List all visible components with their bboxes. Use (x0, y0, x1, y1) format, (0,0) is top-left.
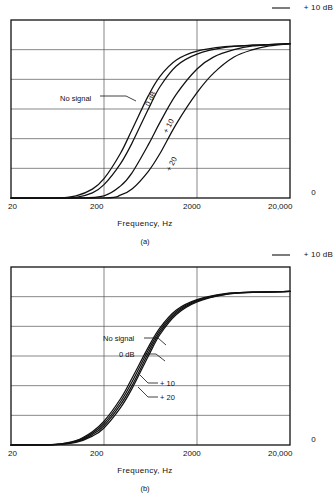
x-axis-title-a: Frequency, Hz (0, 219, 290, 228)
xtick-20000-b: 20,000 (268, 449, 292, 458)
curve-20 (11, 44, 290, 198)
axis-bottom-label-b: 0 (311, 435, 316, 444)
xtick-200-a: 200 (90, 202, 103, 211)
curve-label-plus20-b: + 20 (160, 393, 175, 402)
curve-no-signal (11, 44, 290, 198)
curve-label-no-signal-a: No signal (60, 94, 91, 103)
xtick-20000-a: 20,000 (268, 202, 292, 211)
chart-a-svg (0, 0, 335, 215)
xtick-20-a: 20 (8, 202, 17, 211)
x-axis-title-b: Frequency, Hz (0, 466, 290, 475)
xtick-2000-b: 2000 (183, 449, 201, 458)
xtick-200-b: 200 (90, 449, 103, 458)
chart-b-svg (0, 247, 335, 462)
curve-label-0db-b: 0 dB (119, 350, 134, 359)
figure-a: + 10 dB 0 20 200 2000 20,000 No signal 0… (0, 0, 335, 248)
curve-10 (11, 291, 290, 445)
figure-caption-b: (b) (0, 484, 290, 493)
curve-0-db (11, 44, 290, 198)
curve-0-db (11, 291, 290, 445)
label-leader-line (140, 375, 158, 383)
axis-top-label-a: + 10 dB (304, 3, 333, 12)
curve-label-no-signal-b: No signal (103, 334, 134, 343)
xtick-20-b: 20 (8, 449, 17, 458)
curve-10 (11, 44, 290, 198)
curve-no-signal (11, 291, 290, 445)
figure-b: + 10 dB 0 20 200 2000 20,000 No signal 0… (0, 247, 335, 495)
xtick-2000-a: 2000 (183, 202, 201, 211)
axis-top-label-b: + 10 dB (304, 250, 333, 259)
label-leader-line (100, 96, 136, 101)
axis-bottom-label-a: 0 (311, 188, 316, 197)
plot-area-b (0, 247, 335, 462)
curve-20 (11, 291, 290, 445)
figure-caption-a: (a) (0, 237, 290, 246)
label-leader-line (138, 387, 158, 397)
curve-label-plus10-b: + 10 (160, 379, 175, 388)
plot-area-a (0, 0, 335, 215)
